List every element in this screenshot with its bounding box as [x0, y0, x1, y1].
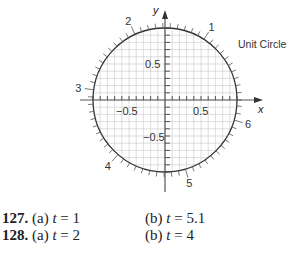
angle-label-1: 1	[209, 21, 215, 33]
angle-label-2: 2	[125, 15, 131, 27]
angle-labels: 123456	[75, 15, 251, 190]
x-tick-label-pos: 0.5	[193, 105, 208, 117]
angle-label-4: 4	[105, 160, 111, 172]
chart-title: Unit Circle	[238, 38, 287, 50]
y-tick-label-neg: −0.5	[143, 131, 165, 143]
y-axis-arrow-icon	[162, 10, 168, 19]
x-tick-label-neg: −0.5	[116, 105, 138, 117]
angle-label-5: 5	[186, 177, 192, 189]
unit-circle-figure: x y −0.5 0.5 0.5 −0.5 Unit Circle 123456	[0, 0, 292, 256]
angle-label-3: 3	[75, 82, 81, 94]
y-axis-label: y	[152, 4, 160, 16]
y-tick-label-pos: 0.5	[145, 58, 160, 70]
angle-label-6: 6	[245, 118, 251, 130]
x-axis-label: x	[257, 103, 264, 115]
